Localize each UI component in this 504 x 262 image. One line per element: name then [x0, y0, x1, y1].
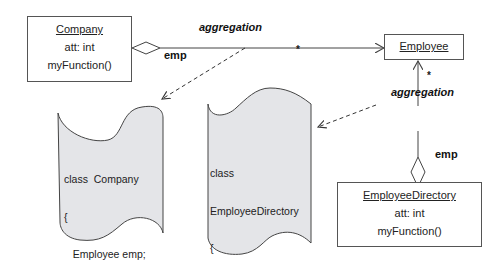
multiplicity-label: *: [296, 44, 300, 55]
association-label: aggregation: [199, 21, 262, 33]
code-line: class Company: [64, 173, 146, 186]
class-method: myFunction(): [28, 59, 131, 71]
code-line: {: [210, 242, 299, 255]
aggregation-directory-employee: [411, 61, 425, 187]
class-box-company[interactable]: Company att: int myFunction(): [27, 16, 132, 82]
class-box-employee[interactable]: Employee: [384, 34, 464, 60]
dashed-arrow-icon: [318, 105, 376, 127]
aggregation-diamond-icon: [132, 42, 160, 54]
code-line: class: [210, 167, 299, 180]
code-line: Employee emp;: [64, 248, 146, 261]
code-note-employee-directory: class EmployeeDirectory { Employee emp; …: [210, 142, 299, 262]
role-label: emp: [164, 49, 187, 61]
class-method: myFunction(): [338, 225, 481, 237]
class-attribute: att: int: [28, 41, 131, 53]
code-line: EmployeeDirectory: [210, 205, 299, 218]
role-label: emp: [435, 148, 458, 160]
code-note-company: class Company { Employee emp; int att; .…: [64, 148, 146, 262]
class-name: Company: [28, 23, 131, 35]
code-line: {: [64, 211, 146, 224]
class-name: Employee: [385, 40, 463, 52]
class-name: EmployeeDirectory: [338, 189, 481, 201]
multiplicity-label: *: [427, 70, 431, 81]
association-label: aggregation: [391, 86, 454, 98]
class-attribute: att: int: [338, 207, 481, 219]
class-box-employee-directory[interactable]: EmployeeDirectory att: int myFunction(): [337, 182, 482, 247]
